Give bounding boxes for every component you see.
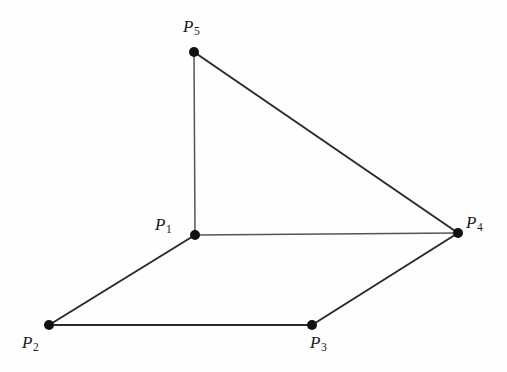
vertex-label-p1: P1	[155, 216, 172, 236]
vertex-p5[interactable]	[189, 47, 199, 57]
label-letter: P	[310, 333, 321, 352]
edges-group	[49, 52, 458, 325]
figure-canvas: P1P2P3P4P5	[0, 0, 507, 372]
label-letter: P	[183, 17, 194, 36]
label-subscript: 2	[33, 341, 39, 354]
label-letter: P	[155, 215, 166, 234]
label-subscript: 1	[166, 223, 172, 236]
label-letter: P	[466, 213, 477, 232]
label-subscript: 3	[321, 341, 327, 354]
vertex-label-p3: P3	[310, 334, 327, 354]
edge-P5-P1	[194, 52, 195, 235]
label-subscript: 4	[477, 221, 483, 234]
vertex-p4[interactable]	[453, 228, 463, 238]
label-letter: P	[22, 333, 33, 352]
edge-P3-P4	[312, 233, 458, 325]
vertex-label-p2: P2	[22, 334, 39, 354]
edge-P1-P4	[195, 233, 458, 235]
vertex-p2[interactable]	[44, 320, 54, 330]
vertex-label-p5: P5	[183, 18, 200, 38]
edge-P5-P4	[194, 52, 458, 233]
label-subscript: 5	[194, 25, 200, 38]
vertex-p1[interactable]	[190, 230, 200, 240]
figure-svg	[0, 0, 507, 372]
vertex-p3[interactable]	[307, 320, 317, 330]
vertex-label-p4: P4	[466, 214, 483, 234]
vertices-group	[44, 47, 463, 330]
edge-P1-P2	[49, 235, 195, 325]
